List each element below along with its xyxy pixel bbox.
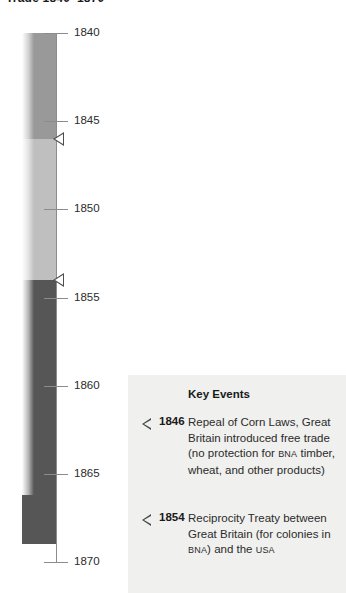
timeline-bar-segment <box>22 280 56 545</box>
axis-tick-label: 1855 <box>74 292 100 304</box>
abbreviation: USA <box>256 545 275 555</box>
key-event-marker-icon <box>142 418 151 430</box>
key-event-description: Reciprocity Treaty between Great Britain… <box>188 511 340 559</box>
abbreviation: BNA <box>188 545 207 555</box>
axis-tick <box>44 562 68 563</box>
axis-tick <box>44 33 68 34</box>
axis-tick-label: 1850 <box>74 203 100 215</box>
axis-tick-label: 1865 <box>74 468 100 480</box>
key-events-panel: Key Events 1846Repeal of Corn Laws, Grea… <box>128 375 346 593</box>
timeline-bar <box>22 33 56 495</box>
axis-tick <box>44 298 68 299</box>
axis-tick-label: 1870 <box>74 556 100 568</box>
axis-tick <box>44 474 68 475</box>
axis-tick <box>44 209 68 210</box>
page-title: Trade 1840–1870 <box>6 0 104 5</box>
axis-tick-label: 1860 <box>74 380 100 392</box>
timeline-bar-segment <box>22 33 56 139</box>
axis-tick-label: 1840 <box>74 27 100 39</box>
abbreviation: BNA <box>278 449 297 459</box>
axis-tick <box>44 386 68 387</box>
key-event-year: 1846 <box>159 415 185 427</box>
key-event-description: Repeal of Corn Laws, Great Britain intro… <box>188 415 340 478</box>
key-event-marker-icon <box>142 514 151 526</box>
timeline-event-marker <box>53 132 64 146</box>
key-events-title: Key Events <box>188 388 250 400</box>
key-event-year: 1854 <box>159 511 185 523</box>
axis-tick-label: 1845 <box>74 115 100 127</box>
timeline-event-marker <box>53 273 64 287</box>
axis-tick <box>44 121 68 122</box>
